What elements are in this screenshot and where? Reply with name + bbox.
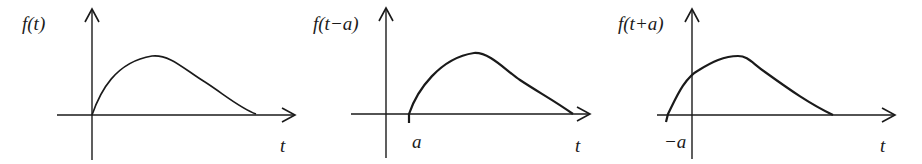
ylabel-f-t-minus-a: f(t−a) <box>313 14 359 33</box>
diagram-canvas <box>0 0 922 164</box>
curve-f-t-plus-a <box>666 56 833 122</box>
ylabel-f-t-plus-a: f(t+a) <box>618 14 664 33</box>
panel-shift-right <box>351 8 590 158</box>
marker-label-a: a <box>412 132 422 151</box>
xlabel-t: t <box>880 136 885 155</box>
xlabel-t: t <box>280 136 285 155</box>
xlabel-t: t <box>575 136 580 155</box>
marker-label-minus-a: −a <box>664 132 686 151</box>
ylabel-f-t: f(t) <box>22 14 45 33</box>
curve-f-t-minus-a <box>409 53 573 123</box>
panel-original <box>57 9 295 160</box>
panel-shift-left <box>657 9 895 159</box>
curve-f-t <box>92 56 256 115</box>
